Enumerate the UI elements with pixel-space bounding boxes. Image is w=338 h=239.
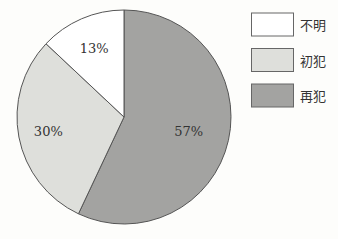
legend-label-0: 不明 bbox=[300, 18, 326, 33]
slice-label-0: 57% bbox=[174, 124, 203, 139]
legend-swatch-0 bbox=[252, 13, 294, 36]
legend-label-2: 再犯 bbox=[300, 89, 326, 104]
legend-label-1: 初犯 bbox=[300, 54, 326, 69]
slice-label-1: 30% bbox=[34, 124, 63, 139]
legend-swatch-2 bbox=[252, 84, 294, 107]
legend-swatch-1 bbox=[252, 49, 294, 72]
slice-label-2: 13% bbox=[80, 41, 109, 56]
pie-chart: 57%30%13%不明初犯再犯 bbox=[0, 0, 338, 239]
